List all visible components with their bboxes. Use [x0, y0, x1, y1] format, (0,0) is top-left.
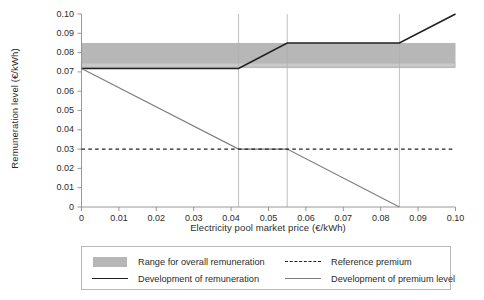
- chart-legend: Range for overall remuneration Reference…: [81, 246, 451, 290]
- legend-key-reference-premium-line: [284, 256, 322, 268]
- legend-entry-range: Range for overall remuneration: [91, 255, 265, 269]
- legend-entry-reference-premium: Reference premium: [284, 255, 412, 269]
- legend-entry-premium-level: Development of premium level: [284, 272, 455, 286]
- legend-key-range-swatch: [91, 256, 129, 268]
- legend-label-reference-premium: Reference premium: [331, 257, 412, 267]
- legend-key-premium-level-line: [284, 273, 322, 285]
- legend-key-remuneration-line: [91, 273, 129, 285]
- series-line-1: [82, 68, 400, 207]
- legend-entry-remuneration: Development of remuneration: [91, 272, 259, 286]
- legend-label-remuneration: Development of remuneration: [138, 274, 259, 284]
- legend-label-range: Range for overall remuneration: [138, 257, 265, 267]
- legend-label-premium-level: Development of premium level: [331, 274, 455, 284]
- chart-figure: Remuneration level (€/kWh) Electricity p…: [0, 0, 484, 300]
